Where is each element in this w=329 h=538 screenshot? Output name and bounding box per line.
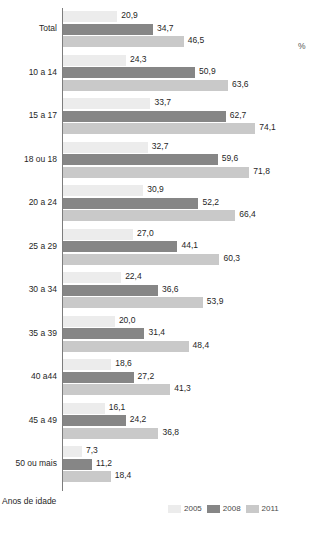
bar-value-label: 36,6 bbox=[162, 284, 179, 294]
bar-2011 bbox=[63, 297, 203, 308]
bar-value-label: 74,1 bbox=[259, 122, 276, 132]
bar-2005 bbox=[63, 272, 121, 283]
bar-2011 bbox=[63, 428, 158, 439]
bar-2005 bbox=[63, 229, 133, 240]
bar-value-label: 34,7 bbox=[157, 23, 174, 33]
bar-2008 bbox=[63, 111, 226, 122]
category-label: 15 a 17 bbox=[0, 110, 57, 120]
bar-2005 bbox=[63, 185, 143, 196]
bar-value-label: 22,4 bbox=[125, 271, 142, 281]
bar-2008 bbox=[63, 24, 153, 35]
bar-2011 bbox=[63, 210, 235, 221]
legend-item-2005[interactable]: 2005 bbox=[168, 504, 202, 513]
bar-value-label: 30,9 bbox=[147, 184, 164, 194]
bar-value-label: 50,9 bbox=[199, 66, 216, 76]
bar-value-label: 62,7 bbox=[230, 110, 247, 120]
bar-value-label: 46,5 bbox=[188, 35, 205, 45]
bar-value-label: 11,2 bbox=[96, 458, 112, 468]
bar-value-label: 24,2 bbox=[130, 414, 147, 424]
bar-2011 bbox=[63, 471, 111, 482]
category-label: 40 a44 bbox=[0, 371, 57, 381]
legend-swatch-icon bbox=[168, 505, 181, 513]
bar-2005 bbox=[63, 316, 115, 327]
bar-2011 bbox=[63, 36, 184, 47]
bar-2005 bbox=[63, 98, 150, 109]
bar-2005 bbox=[63, 403, 105, 414]
bar-value-label: 31,4 bbox=[148, 327, 165, 337]
bar-2008 bbox=[63, 154, 218, 165]
bar-value-label: 32,7 bbox=[152, 141, 169, 151]
legend-item-2008[interactable]: 2008 bbox=[207, 504, 241, 513]
category-label: 30 a 34 bbox=[0, 284, 57, 294]
legend-swatch-icon bbox=[207, 505, 220, 513]
chart-container: % Total20,934,746,510 a 1424,350,963,615… bbox=[0, 0, 329, 538]
bar-2008 bbox=[63, 459, 92, 470]
category-label: 35 a 39 bbox=[0, 328, 57, 338]
bar-value-label: 33,7 bbox=[154, 97, 171, 107]
bar-value-label: 52,2 bbox=[202, 197, 219, 207]
bar-2005 bbox=[63, 11, 117, 22]
axis-caption: Anos de idade bbox=[2, 496, 56, 506]
bar-value-label: 41,3 bbox=[174, 383, 191, 393]
bar-2011 bbox=[63, 123, 255, 134]
category-label: 25 a 29 bbox=[0, 241, 57, 251]
bar-value-label: 63,6 bbox=[232, 79, 249, 89]
legend-label: 2008 bbox=[223, 504, 241, 513]
bar-2008 bbox=[63, 415, 126, 426]
bar-value-label: 24,3 bbox=[130, 54, 147, 64]
bar-value-label: 20,9 bbox=[121, 10, 138, 20]
legend-label: 2005 bbox=[184, 504, 202, 513]
bar-2011 bbox=[63, 80, 228, 91]
category-label: Total bbox=[0, 23, 57, 33]
legend-swatch-icon bbox=[246, 505, 259, 513]
category-label: 10 a 14 bbox=[0, 67, 57, 77]
bar-value-label: 16,1 bbox=[109, 402, 126, 412]
bar-value-label: 18,6 bbox=[115, 358, 132, 368]
plot-area: Total20,934,746,510 a 1424,350,963,615 a… bbox=[0, 8, 329, 491]
bar-value-label: 27,2 bbox=[138, 371, 155, 381]
bar-value-label: 18,4 bbox=[115, 470, 132, 480]
bar-value-label: 53,9 bbox=[207, 296, 224, 306]
bar-2008 bbox=[63, 67, 195, 78]
bar-value-label: 27,0 bbox=[137, 228, 154, 238]
bar-value-label: 44,1 bbox=[181, 240, 198, 250]
bar-2011 bbox=[63, 254, 219, 265]
category-label: 50 ou mais bbox=[0, 458, 57, 468]
bar-2005 bbox=[63, 359, 111, 370]
category-label: 45 a 49 bbox=[0, 415, 57, 425]
bar-2008 bbox=[63, 198, 198, 209]
category-label: 18 ou 18 bbox=[0, 154, 57, 164]
legend-label: 2011 bbox=[262, 504, 279, 513]
bar-2011 bbox=[63, 341, 189, 352]
bar-2008 bbox=[63, 241, 177, 252]
bar-2005 bbox=[63, 55, 126, 66]
bar-2011 bbox=[63, 384, 170, 395]
bar-2011 bbox=[63, 167, 249, 178]
legend-item-2011[interactable]: 2011 bbox=[246, 504, 279, 513]
bar-value-label: 66,4 bbox=[239, 209, 256, 219]
bar-value-label: 7,3 bbox=[86, 445, 98, 455]
bar-value-label: 20,0 bbox=[119, 315, 136, 325]
bar-2008 bbox=[63, 285, 158, 296]
bar-2008 bbox=[63, 328, 144, 339]
bar-2008 bbox=[63, 372, 134, 383]
bar-value-label: 60,3 bbox=[223, 253, 240, 263]
bar-value-label: 36,8 bbox=[162, 427, 179, 437]
bar-value-label: 71,8 bbox=[253, 166, 270, 176]
category-label: 20 a 24 bbox=[0, 197, 57, 207]
bar-value-label: 59,6 bbox=[222, 153, 239, 163]
bar-2005 bbox=[63, 142, 148, 153]
clipped-title bbox=[70, 0, 270, 5]
bar-2005 bbox=[63, 446, 82, 457]
bar-value-label: 48,4 bbox=[193, 340, 210, 350]
chart-legend: 200520082011 bbox=[168, 504, 279, 513]
